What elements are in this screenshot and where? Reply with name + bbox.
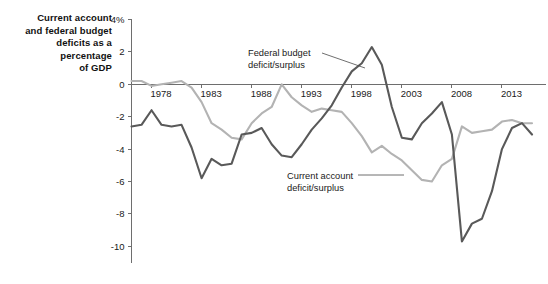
current-annotation-line-1: Current account [287, 171, 354, 181]
data-series-group [132, 47, 533, 241]
x-tick-label: 1993 [301, 88, 322, 99]
federal-leader-line [322, 53, 365, 68]
y-tick-label: 4% [111, 14, 125, 25]
x-tick-label: 2008 [451, 88, 472, 99]
y-tick-label: -10 [111, 241, 125, 252]
y-tick-label: -8 [116, 208, 124, 219]
x-tick-label: 1983 [201, 88, 222, 99]
y-axis: 4%20-2-4-6-8-10 [111, 14, 132, 263]
chart-figure: Current account and federal budget defic… [0, 0, 548, 284]
series-annotations: Federal budget deficit/surplus Current a… [248, 48, 404, 193]
y-tick-label: -2 [116, 111, 124, 122]
y-axis-ticks: 4%20-2-4-6-8-10 [111, 14, 132, 252]
federal-annotation-line-1: Federal budget [248, 48, 311, 58]
x-tick-label: 2003 [401, 88, 422, 99]
current-annotation-line-2: deficit/surplus [287, 183, 344, 193]
x-tick-label: 2013 [501, 88, 522, 99]
chart-plot-area: 4%20-2-4-6-8-10 197819831988199319982003… [0, 0, 548, 284]
federal-annotation-line-2: deficit/surplus [248, 60, 305, 70]
y-tick-label: 0 [119, 79, 124, 90]
series-federal-budget [132, 47, 533, 241]
x-tick-label: 1998 [351, 88, 372, 99]
x-tick-label: 1978 [151, 88, 172, 99]
x-tick-label: 1988 [251, 88, 272, 99]
y-tick-label: 2 [119, 46, 124, 57]
y-tick-label: -4 [116, 144, 124, 155]
y-tick-label: -6 [116, 176, 124, 187]
